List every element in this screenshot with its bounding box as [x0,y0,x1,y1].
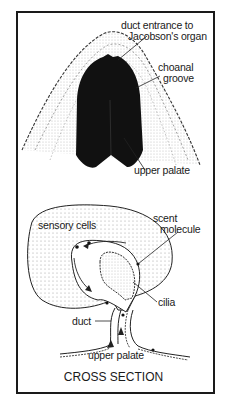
label-cilia: cilia [158,297,175,308]
caption-cross-section: CROSS SECTION [0,370,227,384]
label-duct: duct [72,316,91,327]
label-sensory-cells: sensory cells [38,220,96,231]
palate-top-view [22,32,200,170]
label-choanal-line2: groove [163,73,194,84]
choanal-shape [76,54,143,168]
label-upper-palate-bottom: upper palate [88,350,144,361]
label-scent-line2: molecule [160,224,200,235]
label-duct-entrance-line2: Jacobson's organ [128,31,207,42]
label-upper-palate-top: upper palate [134,165,190,176]
